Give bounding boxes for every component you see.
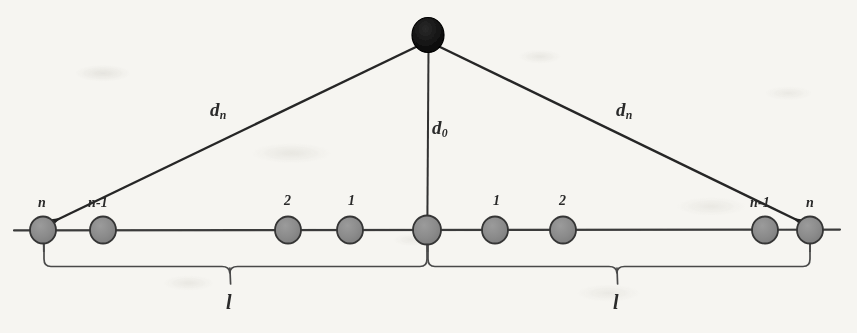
- node-label-2-right: 2: [559, 194, 566, 208]
- distance-subscript: n: [220, 109, 227, 122]
- array-node[interactable]: [90, 217, 116, 244]
- array-node[interactable]: [550, 217, 576, 244]
- array-node[interactable]: [752, 217, 778, 244]
- distance-subscript: n: [626, 109, 633, 122]
- brace-label-length-left: l: [226, 292, 232, 312]
- distance-base: d: [616, 99, 626, 120]
- brace-left-tip: [230, 268, 231, 284]
- array-node[interactable]: [337, 217, 363, 244]
- node-label-nminus1-left: n-1: [88, 196, 108, 210]
- array-node[interactable]: [30, 217, 56, 244]
- node-label-1-left: 1: [348, 194, 355, 208]
- node-label-n-left: n: [38, 196, 46, 210]
- distance-subscript: 0: [442, 127, 448, 140]
- array-node[interactable]: [797, 217, 823, 244]
- distance-label-dn-right: dn: [616, 100, 632, 119]
- figure-canvas: n n-1 2 1 1 2 n-1 n dn d0 dn l l: [0, 0, 857, 333]
- brace-right: [428, 243, 810, 273]
- drop-line-center: [427, 50, 428, 217]
- distance-label-dn-left: dn: [210, 100, 226, 119]
- source-node[interactable]: [412, 18, 444, 53]
- distance-base: d: [432, 117, 442, 138]
- node-label-2-left: 2: [284, 194, 291, 208]
- array-node[interactable]: [482, 217, 508, 244]
- diagram-vector-layer: [0, 0, 857, 333]
- distance-base: d: [210, 99, 220, 120]
- brace-label-length-right: l: [613, 292, 619, 312]
- brace-left: [44, 243, 427, 273]
- node-label-n-right: n: [806, 196, 814, 210]
- array-node[interactable]: [275, 217, 301, 244]
- node-label-nminus1-right: n-1: [750, 196, 770, 210]
- array-node-center[interactable]: [413, 216, 441, 245]
- distance-label-d0: d0: [432, 118, 447, 137]
- brace-right-tip: [617, 268, 618, 284]
- node-label-1-right: 1: [493, 194, 500, 208]
